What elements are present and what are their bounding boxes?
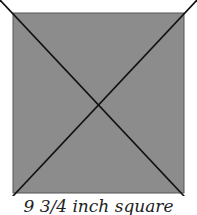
square-shape [13,13,184,193]
square-diagram [0,0,197,215]
dimension-caption: 9 3/4 inch square [0,196,197,215]
